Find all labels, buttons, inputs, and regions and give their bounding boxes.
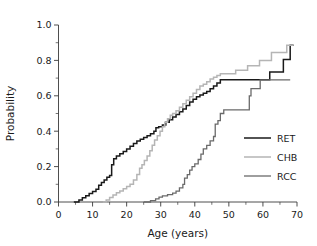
x-tick-label: 60 <box>257 209 269 220</box>
chart-series <box>74 45 294 202</box>
legend-label-chb: CHB <box>277 152 297 163</box>
y-tick-label: 0.4 <box>36 126 51 137</box>
x-tick-label: 50 <box>223 209 235 220</box>
y-tick-label: 0.6 <box>36 90 51 101</box>
series-line-rcc <box>144 80 291 202</box>
chart-legend: RETCHBRCC <box>244 133 297 182</box>
series-line-ret <box>74 45 294 202</box>
legend-label-rcc: RCC <box>277 171 297 182</box>
x-tick-label: 20 <box>121 209 133 220</box>
legend-label-ret: RET <box>277 133 296 144</box>
x-tick-label: 40 <box>189 209 201 220</box>
y-tick-label: 0.2 <box>36 161 51 172</box>
cumulative-probability-chart: 0.00.20.40.60.81.0010203040506070Age (ye… <box>0 0 317 246</box>
chart-labels: 0.00.20.40.60.81.0010203040506070Age (ye… <box>4 19 303 239</box>
y-tick-label: 1.0 <box>36 19 51 30</box>
y-tick-label: 0.8 <box>36 55 51 66</box>
x-tick-label: 0 <box>55 209 61 220</box>
y-tick-label: 0.0 <box>36 196 51 207</box>
x-tick-label: 30 <box>155 209 167 220</box>
x-tick-label: 70 <box>291 209 303 220</box>
chart-figure: 0.00.20.40.60.81.0010203040506070Age (ye… <box>0 0 317 246</box>
series-line-chb <box>103 45 294 202</box>
x-axis-title: Age (years) <box>147 227 208 239</box>
x-tick-label: 10 <box>87 209 99 220</box>
y-axis-title: Probability <box>4 86 16 142</box>
